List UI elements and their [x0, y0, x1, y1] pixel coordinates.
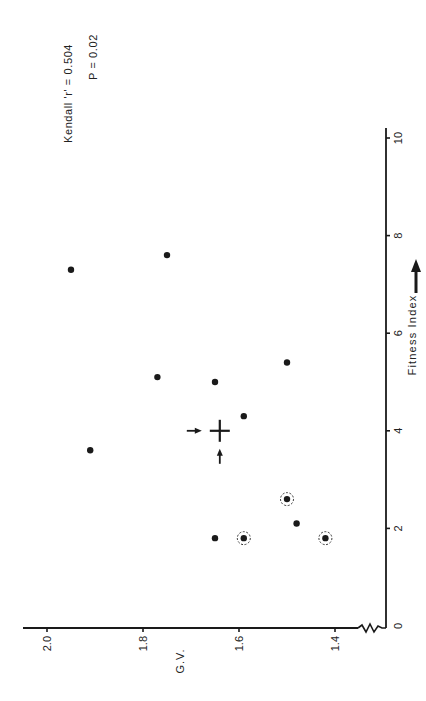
gv-axis-label: G.V.	[174, 649, 186, 674]
gv-tick-label: 1.4	[329, 636, 341, 651]
fitness-tick-label: 4	[392, 428, 404, 434]
point-dot	[87, 447, 93, 453]
point-dot	[284, 496, 290, 502]
point-dot	[212, 379, 218, 385]
scatter-chart: Kendall 'r' = 0.504P = 0.02 02468102.01.…	[0, 0, 426, 701]
data-point	[87, 447, 93, 453]
point-dot	[284, 359, 290, 365]
gv-tick-label: 2.0	[41, 636, 53, 651]
point-dot	[68, 267, 74, 273]
arrowhead-up-icon	[217, 449, 223, 456]
fitness-tick-label: 2	[392, 525, 404, 531]
data-point	[284, 359, 290, 365]
data-point	[241, 413, 247, 419]
point-dot	[241, 535, 247, 541]
kendall-annotation: Kendall 'r' = 0.504	[62, 44, 74, 143]
data-points	[68, 252, 332, 545]
direction-arrowhead-icon	[411, 259, 421, 272]
fitness-tick-label: 0	[392, 623, 404, 629]
point-dot	[241, 413, 247, 419]
axis-break-icon	[358, 624, 386, 632]
mean-marker	[187, 420, 230, 464]
data-point	[68, 267, 74, 273]
point-dot	[322, 535, 328, 541]
gv-tick-label: 1.6	[233, 636, 245, 651]
arrowhead-right-icon	[195, 428, 202, 434]
circled-data-point	[319, 532, 332, 545]
circled-data-point	[237, 532, 250, 545]
point-dot	[154, 374, 160, 380]
data-point	[154, 374, 160, 380]
data-point	[293, 520, 299, 526]
fitness-axis-label: Fitness Index	[406, 294, 418, 375]
axes: 02468102.01.81.61.4G.V.Fitness Index	[23, 128, 421, 674]
data-point	[164, 252, 170, 258]
gv-tick-label: 1.8	[137, 636, 149, 651]
fitness-tick-label: 8	[392, 233, 404, 239]
fitness-tick-label: 6	[392, 330, 404, 336]
data-point	[212, 535, 218, 541]
stat-annotations: Kendall 'r' = 0.504P = 0.02	[62, 34, 99, 143]
data-point	[212, 379, 218, 385]
point-dot	[293, 520, 299, 526]
fitness-tick-label: 10	[392, 132, 404, 144]
p-value-annotation: P = 0.02	[87, 34, 99, 80]
circled-data-point	[281, 493, 294, 506]
point-dot	[212, 535, 218, 541]
point-dot	[164, 252, 170, 258]
